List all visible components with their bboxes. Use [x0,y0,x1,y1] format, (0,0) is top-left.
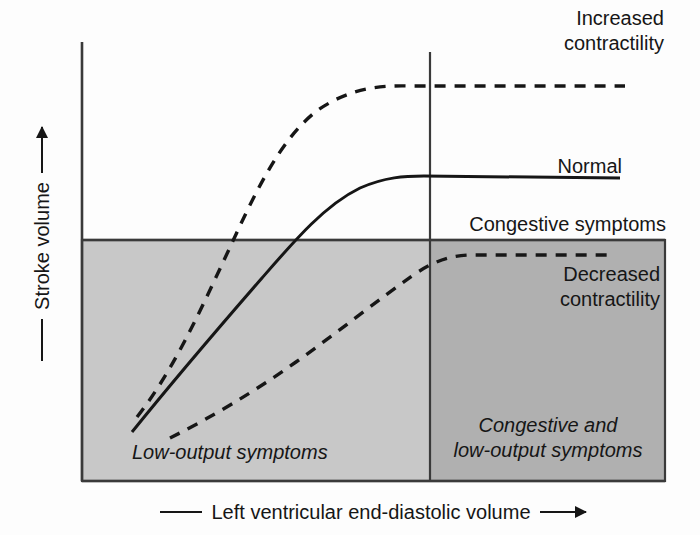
label-congestive-and-low-output-symptoms: Congestive andlow-output symptoms [437,413,659,463]
label-decreased-contractility: Decreasedcontractility [560,262,660,312]
label-normal: Normal [558,154,622,178]
ventricular-function-curve-figure: Increasedcontractility Normal Decreasedc… [0,0,700,535]
label-congestive-and-low-output-line1: Congestive and [479,414,618,436]
label-congestive-and-low-output-line2: low-output symptoms [454,439,643,461]
label-decreased-contractility-line2: contractility [560,288,660,310]
x-axis-rule [160,511,202,513]
x-axis-title: Left ventricular end-diastolic volume [81,498,665,526]
y-axis-title: Stroke volume [27,84,57,404]
label-increased-contractility-line2: contractility [564,32,664,54]
label-decreased-contractility-line1: Decreased [563,263,660,285]
label-low-output-symptoms: Low-output symptoms [132,440,328,464]
x-axis-title-text: Left ventricular end-diastolic volume [211,501,530,524]
x-axis-arrow-icon [540,511,586,513]
label-increased-contractility-line1: Increased [576,7,664,29]
y-axis-title-text: Stroke volume [31,182,54,310]
y-axis-arrow-icon [41,127,43,173]
y-axis-rule [41,319,43,361]
label-increased-contractility: Increasedcontractility [564,6,664,56]
label-congestive-symptoms: Congestive symptoms [469,212,666,236]
